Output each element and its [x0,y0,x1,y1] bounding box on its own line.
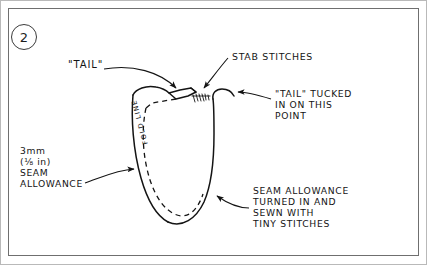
diagram-screenshot: 2 [0,0,427,265]
leader-arrow-stab-stitches [204,58,228,88]
label-stab-stitches: STAB STITCHES [232,51,313,62]
seam-allowance-size-mm: 3mm [20,145,46,156]
tucked-tail-tab [169,88,196,99]
leader-arrow-seam-allowance-right [217,196,249,208]
stab-stitches-marks [192,94,210,102]
label-seam-allowance-left: 3mm(⅛ in)SEAM ALLOWANCE [20,146,83,189]
line-art-drawing [0,0,427,265]
leader-arrow-tail-tucked [238,92,271,99]
leader-arrow-tail [104,68,176,88]
seam-allowance-caption: SEAM ALLOWANCE [20,167,83,189]
label-seam-allowance-turned-in: SEAM ALLOWANCE TURNED IN AND SEWN WITH T… [253,186,349,229]
label-tail: "TAIL" [68,59,103,71]
label-tail-tucked-in-on-this-point: "TAIL" TUCKED IN ON THIS POINT [275,89,352,122]
fold-line-dashed [143,99,203,216]
leader-arrow-seam-allowance-left [85,169,134,183]
seam-allowance-size-inches: (⅛ in) [20,156,51,167]
